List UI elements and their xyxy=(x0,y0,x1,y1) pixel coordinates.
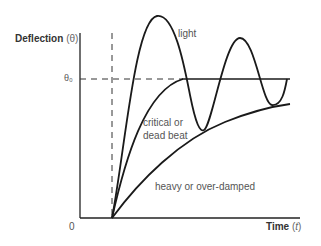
heavy-curve-label: heavy or over-damped xyxy=(155,182,255,192)
y-axis-symbol-text: θ xyxy=(69,33,75,44)
x-axis-label-text: Time xyxy=(266,221,289,232)
light-curve-label: light xyxy=(178,29,196,39)
y-axis-symbol: (θ) xyxy=(66,33,78,44)
x-axis-symbol-text: t xyxy=(295,221,298,232)
x-axis-label: Time (t) xyxy=(266,222,301,232)
damping-diagram: Deflection (θ) θ₀ 0 Time (t) light criti… xyxy=(0,0,321,246)
origin-label: 0 xyxy=(69,222,75,232)
x-axis-symbol: (t) xyxy=(292,221,301,232)
heavy-damping-curve xyxy=(112,104,290,218)
steady-level-label: θ₀ xyxy=(64,74,73,83)
critical-curve-label-line1: critical or xyxy=(143,118,183,128)
y-axis-label-text: Deflection xyxy=(15,33,63,44)
y-axis-label: Deflection (θ) xyxy=(15,34,78,44)
critical-curve-label-line2: dead beat xyxy=(143,131,188,141)
